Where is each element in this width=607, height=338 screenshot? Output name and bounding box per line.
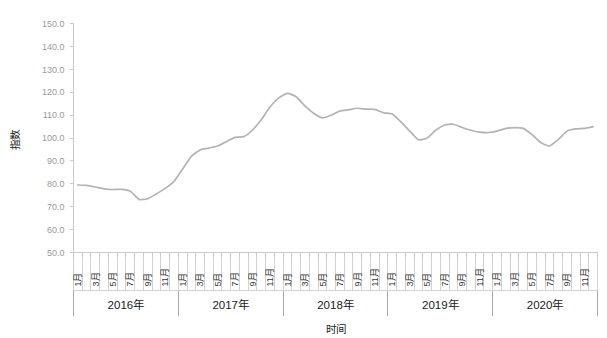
x-axis-year-label: 2016年 xyxy=(108,298,145,311)
x-axis-month-label: 1月 xyxy=(492,272,502,286)
x-axis-year-label: 2018年 xyxy=(317,298,354,311)
line-chart: 150.0140.0130.0120.0110.0100.090.080.070… xyxy=(0,0,607,338)
x-axis-month-label: 9月 xyxy=(143,272,153,286)
x-axis-month-label: 9月 xyxy=(248,272,258,286)
y-axis-tick-label: 60.0 xyxy=(47,225,65,235)
x-axis-month-label: 9月 xyxy=(562,272,572,286)
y-axis-tick-label: 150.0 xyxy=(42,19,65,29)
x-axis-month-label: 3月 xyxy=(91,272,101,286)
x-axis-month-label: 5月 xyxy=(318,272,328,286)
y-axis-tick-label: 70.0 xyxy=(47,202,65,212)
x-axis-tick-marks xyxy=(74,253,598,258)
y-axis-title: 指数 xyxy=(9,129,21,150)
y-axis-tick-label: 110.0 xyxy=(43,110,65,120)
x-axis-month-label: 5月 xyxy=(213,272,223,286)
x-axis-month-labels: 1月3月5月7月9月11月1月3月5月7月9月11月1月3月5月7月9月11月1… xyxy=(73,268,590,286)
x-axis-month-label: 1月 xyxy=(387,272,397,286)
x-axis-month-label: 11月 xyxy=(160,268,170,286)
y-axis-tick-label: 80.0 xyxy=(47,179,65,189)
x-axis-year-label: 2017年 xyxy=(212,298,249,311)
x-axis-year-label: 2020年 xyxy=(527,298,564,311)
x-axis-month-label: 7月 xyxy=(440,272,450,286)
x-axis-month-label: 1月 xyxy=(73,272,83,286)
x-axis-month-label: 9月 xyxy=(353,272,363,286)
x-axis-month-label: 9月 xyxy=(457,272,467,286)
y-axis-tick-labels: 150.0140.0130.0120.0110.0100.090.080.070… xyxy=(42,19,65,258)
x-axis-year-label: 2019年 xyxy=(422,298,459,311)
x-axis-title: 时间 xyxy=(326,323,346,335)
x-axis-month-label: 11月 xyxy=(265,268,275,286)
x-axis-month-label: 5月 xyxy=(527,272,537,286)
y-axis-tick-label: 100.0 xyxy=(42,133,65,143)
y-axis-tick-label: 130.0 xyxy=(42,65,65,75)
x-axis-month-label: 1月 xyxy=(283,272,293,286)
x-axis-month-label: 7月 xyxy=(125,272,135,286)
y-axis-tick-label: 90.0 xyxy=(47,156,65,166)
x-axis-month-label: 11月 xyxy=(475,268,485,286)
x-axis-month-label: 5月 xyxy=(422,272,432,286)
x-axis-month-label: 7月 xyxy=(335,272,345,286)
x-axis-year-labels: 2016年2017年2018年2019年2020年 xyxy=(108,298,564,311)
y-axis-tick-marks xyxy=(70,24,74,253)
x-axis-month-label: 3月 xyxy=(195,272,205,286)
x-axis-month-label: 7月 xyxy=(545,272,555,286)
x-axis-month-label: 3月 xyxy=(300,272,310,286)
x-axis-month-label: 3月 xyxy=(510,272,520,286)
y-axis-tick-label: 50.0 xyxy=(47,248,65,258)
x-axis-month-label: 1月 xyxy=(178,272,188,286)
x-axis-month-label: 11月 xyxy=(580,268,590,286)
y-axis-tick-label: 120.0 xyxy=(42,87,65,97)
x-axis-month-label: 3月 xyxy=(405,272,415,286)
x-axis-month-label: 5月 xyxy=(108,272,118,286)
data-series-line xyxy=(78,93,593,199)
x-axis-month-label: 7月 xyxy=(230,272,240,286)
y-axis-tick-label: 140.0 xyxy=(42,42,65,52)
x-axis-month-label: 11月 xyxy=(370,268,380,286)
chart-canvas: 150.0140.0130.0120.0110.0100.090.080.070… xyxy=(0,0,607,338)
